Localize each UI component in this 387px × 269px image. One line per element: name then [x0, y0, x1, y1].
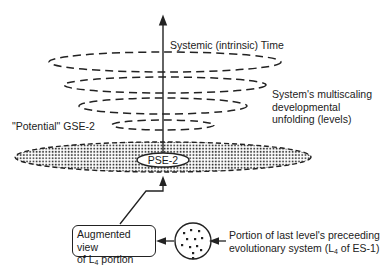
level-ellipse-2 — [64, 77, 266, 93]
level-ellipses — [49, 52, 281, 130]
potential-gse-label: "Potential" GSE-2 — [12, 120, 95, 133]
connector-arrow — [120, 181, 163, 224]
portion-label: Portion of last level's preceeding evolu… — [229, 229, 380, 254]
portion-line-1: Portion of last level's preceeding — [229, 229, 380, 242]
sample-circle — [175, 223, 211, 259]
levels-label-line-2: developmental — [272, 101, 372, 114]
portion-line-2-prefix: evolutionary system (L — [229, 242, 334, 254]
pse-label: PSE-2 — [140, 153, 186, 167]
level-ellipse-1 — [49, 52, 281, 72]
portion-line-2: evolutionary system (L4 of ES-1) — [229, 242, 380, 255]
augmented-view-box: Augmented view of L4 portion — [72, 225, 156, 257]
augmented-line-2-suffix: portion — [98, 253, 133, 265]
levels-label: System's multiscaling developmental unfo… — [272, 88, 372, 126]
augmented-line-2-prefix: of L — [77, 253, 95, 265]
levels-label-line-3: unfolding (levels) — [272, 113, 372, 126]
levels-label-line-1: System's multiscaling — [272, 88, 372, 101]
time-axis-label: Systemic (intrinsic) Time — [170, 39, 284, 52]
portion-line-2-suffix: of ES-1) — [338, 242, 379, 254]
augmented-line-1: Augmented view — [77, 228, 151, 253]
augmented-line-2: of L4 portion — [77, 253, 151, 266]
